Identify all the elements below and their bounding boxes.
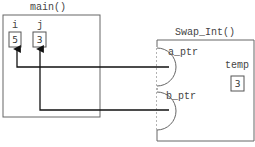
var-j-label: j [37,20,43,31]
var-i-label: i [12,20,18,31]
temp-value: 3 [235,79,241,89]
b-ptr-arrow [40,49,169,110]
main-frame-title: main() [30,2,66,13]
var-j-value: 3 [37,35,43,45]
var-i-value: 5 [12,35,18,45]
b-ptr-label: b_ptr [166,91,196,102]
memory-diagram: main() i 5 j 3 Swap_Int() a_ptr b_ptr te… [0,0,255,147]
a-ptr-label: a_ptr [168,47,198,58]
swap-frame-title: Swap_Int() [175,27,235,38]
temp-label: temp [225,60,249,71]
